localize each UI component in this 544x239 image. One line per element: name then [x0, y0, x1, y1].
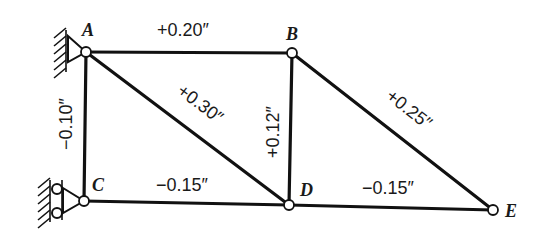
member-label-ad: +0.30″: [174, 80, 228, 128]
joint-b: [287, 48, 297, 58]
joint-a: [81, 47, 91, 57]
joint-d: [284, 200, 294, 210]
member-ac: [84, 52, 86, 201]
member-de: [289, 205, 493, 210]
joint-e: [488, 205, 498, 215]
member-label-bd: +0.12″: [263, 105, 283, 158]
member-label-be: +0.25″: [383, 85, 437, 133]
member-label-cd: −0.15″: [156, 175, 209, 195]
truss-diagram: A B C D E +0.20″ −0.10″ +0.30″ +0.12″ +0…: [0, 0, 544, 239]
joint-label-c: C: [92, 175, 105, 195]
member-cd: [84, 201, 289, 205]
joint-label-d: D: [299, 180, 313, 200]
joint-c: [79, 196, 89, 206]
member-label-de: −0.15″: [362, 178, 415, 198]
member-bd: [289, 53, 292, 205]
member-ab: [86, 52, 292, 53]
roller-support-c: [38, 178, 84, 228]
joint-label-a: A: [81, 20, 94, 40]
joint-label-b: B: [285, 24, 298, 44]
member-label-ac: −0.10″: [56, 97, 76, 150]
joint-label-e: E: [504, 201, 517, 221]
member-label-ab: +0.20″: [157, 20, 210, 40]
